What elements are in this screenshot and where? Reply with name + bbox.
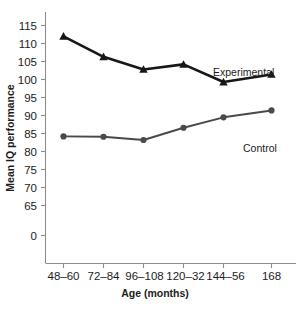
x-tick-label: 72–84 <box>88 270 121 282</box>
series-label-control: Control <box>243 142 277 154</box>
y-tick-label: 75 <box>24 164 37 176</box>
y-tick-label: 70 <box>24 182 37 194</box>
figure-container: 115 110 105 100 95 90 85 80 75 70 65 0 M… <box>0 0 300 314</box>
x-tick-label: 120–32 <box>166 270 204 282</box>
data-point-marker <box>140 137 146 143</box>
data-point-marker <box>60 133 66 139</box>
y-tick-label-zero: 0 <box>31 230 37 242</box>
y-tick-label: 95 <box>24 92 37 104</box>
y-tick-label: 100 <box>18 74 37 86</box>
y-tick-label: 115 <box>19 20 37 32</box>
x-tick-label: 96–108 <box>125 270 163 282</box>
x-tick-label: 144–56 <box>206 270 244 282</box>
data-point-marker <box>268 107 274 113</box>
data-point-marker <box>180 125 186 131</box>
y-tick-label: 85 <box>24 128 37 140</box>
y-tick-label: 105 <box>18 56 37 68</box>
y-tick-label: 110 <box>19 38 37 50</box>
y-axis-title: Mean IQ performance <box>4 84 16 192</box>
data-point-marker <box>100 134 106 140</box>
x-tick-label: 48–60 <box>48 270 80 282</box>
series-label-experimental: Experimental <box>213 66 274 78</box>
x-tick-label: 168 <box>262 270 281 282</box>
x-axis-title: Age (months) <box>121 287 189 299</box>
y-tick-label: 65 <box>24 200 37 212</box>
y-tick-label: 80 <box>24 146 37 158</box>
y-tick-label: 90 <box>24 110 37 122</box>
data-point-marker <box>220 114 226 120</box>
iq-performance-line-chart: 115 110 105 100 95 90 85 80 75 70 65 0 M… <box>0 0 300 314</box>
